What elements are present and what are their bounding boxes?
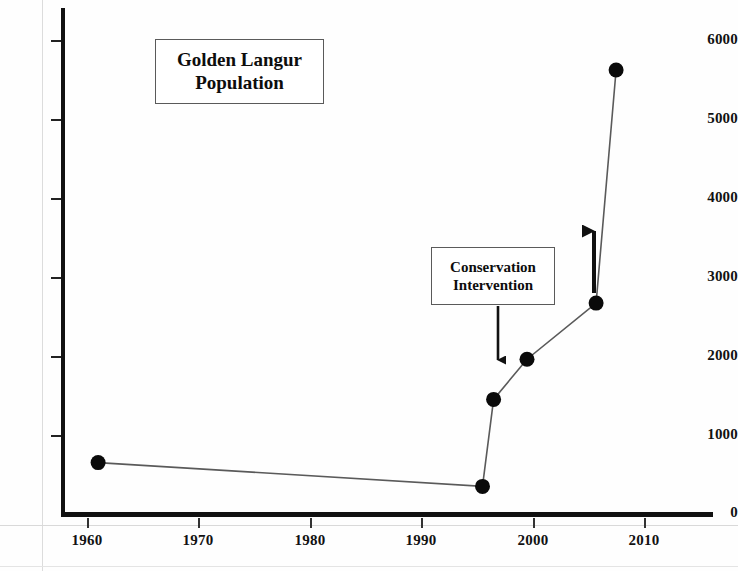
data-point-2008 xyxy=(609,63,624,78)
data-point-1997 xyxy=(486,392,501,407)
conservation-intervention-box: Conservation Intervention xyxy=(431,247,555,305)
data-series-overlay xyxy=(0,0,738,571)
data-point-1961 xyxy=(91,455,106,470)
chart-title-box: Golden Langur Population xyxy=(155,39,324,104)
chart-title-line2: Population xyxy=(195,72,284,94)
chart-title-line1: Golden Langur xyxy=(177,49,302,71)
data-point-2006 xyxy=(589,296,604,311)
intervention-line1: Conservation xyxy=(450,258,536,276)
intervention-line2: Intervention xyxy=(453,276,533,294)
data-point-1996 xyxy=(475,479,490,494)
data-point-2000 xyxy=(520,352,535,367)
chart-canvas: 6000 5000 4000 3000 2000 1000 0 1960 197… xyxy=(0,0,738,571)
